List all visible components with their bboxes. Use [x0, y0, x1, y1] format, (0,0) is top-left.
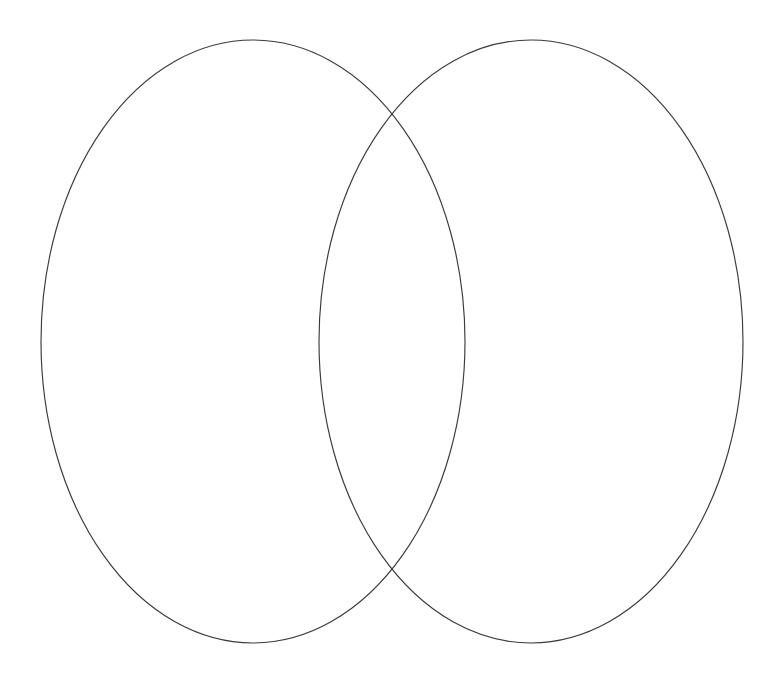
venn-diagram-svg	[0, 0, 778, 673]
venn-diagram-canvas	[0, 0, 778, 673]
